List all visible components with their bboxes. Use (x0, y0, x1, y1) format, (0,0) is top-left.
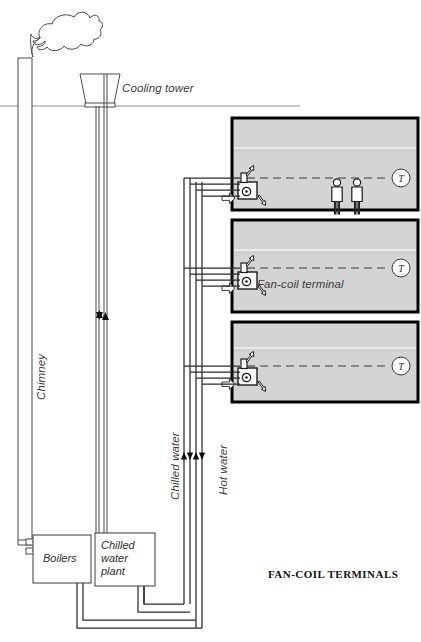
chimney (18, 58, 34, 554)
plant-piping (77, 583, 202, 628)
boilers-label: Boilers (43, 552, 77, 565)
chiller-label-line1: Chilled (101, 539, 135, 552)
room-floor-3 (222, 322, 418, 402)
figure-title: FAN-COIL TERMINALS (268, 568, 398, 580)
smoke-plume (31, 12, 103, 57)
diagram-canvas: T (0, 0, 421, 642)
cooling-tower-label: Cooling tower (122, 82, 194, 96)
thermostat-floor-3 (392, 357, 410, 375)
fan-coil-system-diagram: T (0, 0, 421, 642)
room-floor-1 (222, 118, 418, 214)
chiller-label-line2: water (101, 552, 128, 565)
cooling-tower (80, 74, 120, 533)
riser-flow-arrows (181, 452, 205, 460)
chimney-label: Chimney (35, 354, 49, 400)
thermostat-floor-1 (392, 169, 410, 187)
chiller-label-line3: plant (101, 565, 125, 578)
fan-coil-terminal-label: Fan-coil terminal (257, 278, 344, 292)
room-floor-2 (222, 220, 418, 312)
thermostat-floor-2 (392, 259, 410, 277)
chilled-water-label: Chilled water (169, 432, 183, 500)
hot-water-label: Hot water (217, 445, 231, 495)
